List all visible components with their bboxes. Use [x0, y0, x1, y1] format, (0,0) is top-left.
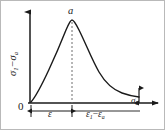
- stress-strain-curve: [31, 20, 139, 102]
- origin-label: 0: [18, 101, 24, 112]
- sigma-r-sub: R: [135, 100, 138, 106]
- stress-strain-plot: [0, 0, 165, 130]
- y-axis-sigma-1: σ: [7, 71, 18, 76]
- peak-point-label: a: [68, 6, 73, 17]
- strain-measure-right-label: ε1−εa: [86, 110, 105, 121]
- residual-stress-label: σR: [131, 96, 139, 106]
- figure-container: σ1−σa 0 a ε ε1−εa σR: [0, 0, 165, 130]
- y-axis-sigma-1-sub: 1: [12, 68, 19, 71]
- y-axis-minus: −: [7, 60, 18, 67]
- y-axis-label: σ1−σa: [2, 36, 24, 92]
- strain-measure-left-label: ε: [48, 110, 52, 120]
- y-axis-sigma-a-sub: a: [12, 52, 19, 55]
- eps-a-sub: a: [102, 114, 105, 120]
- y-axis-sigma-a: σ: [7, 55, 18, 60]
